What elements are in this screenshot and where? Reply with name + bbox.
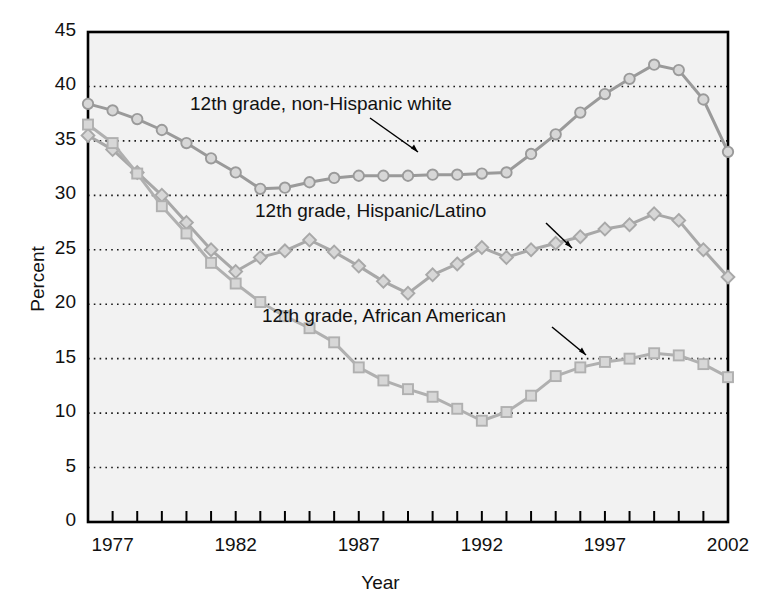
x-tick-label: 1977 <box>73 534 153 556</box>
data-point-marker <box>83 120 93 130</box>
data-point-marker <box>378 375 388 385</box>
x-tick-label: 1997 <box>565 534 645 556</box>
series-line <box>88 125 728 421</box>
y-tick-label: 5 <box>0 455 76 477</box>
x-tick-label: 1987 <box>319 534 399 556</box>
data-point-marker <box>230 167 240 177</box>
data-point-marker <box>526 149 536 159</box>
data-point-marker <box>477 168 487 178</box>
data-point-marker <box>500 251 513 264</box>
data-point-marker <box>329 337 339 347</box>
data-point-marker <box>181 138 191 148</box>
data-point-marker <box>378 171 388 181</box>
data-point-marker <box>649 348 659 358</box>
data-point-marker <box>280 183 290 193</box>
annotation-arrowhead <box>411 145 418 153</box>
data-point-marker <box>428 392 438 402</box>
data-point-marker <box>255 184 265 194</box>
data-point-marker <box>231 279 241 289</box>
data-point-marker <box>107 105 117 115</box>
data-point-marker <box>329 173 339 183</box>
data-point-marker <box>303 234 316 247</box>
data-point-marker <box>600 89 610 99</box>
data-point-marker <box>132 114 142 124</box>
data-point-marker <box>648 207 661 220</box>
data-point-marker <box>206 153 216 163</box>
data-point-marker <box>649 59 659 69</box>
data-point-marker <box>526 391 536 401</box>
data-point-marker <box>83 99 93 109</box>
annotation-arrowhead <box>579 348 586 356</box>
series-african-american <box>83 120 733 426</box>
data-point-marker <box>452 169 462 179</box>
x-axis-title: Year <box>0 572 761 594</box>
annotation-leader-line <box>370 118 418 152</box>
y-tick-label: 35 <box>0 128 76 150</box>
data-point-marker <box>674 350 684 360</box>
data-point-marker <box>477 416 487 426</box>
data-point-marker <box>674 65 684 75</box>
data-point-marker <box>108 138 118 148</box>
data-point-marker <box>254 251 267 264</box>
data-point-marker <box>279 244 292 257</box>
data-point-marker <box>549 237 562 250</box>
y-tick-label: 15 <box>0 346 76 368</box>
x-tick-label: 1982 <box>196 534 276 556</box>
x-tick-label: 2002 <box>688 534 761 556</box>
annotation-label-hispanic-latino: 12th grade, Hispanic/Latino <box>255 200 486 222</box>
data-point-marker <box>452 404 462 414</box>
data-point-marker <box>698 94 708 104</box>
data-point-marker <box>551 371 561 381</box>
y-tick-label: 10 <box>0 400 76 422</box>
y-tick-label: 45 <box>0 19 76 41</box>
chart-figure: Percent Year 051015202530354045 19771982… <box>0 0 761 607</box>
data-point-marker <box>157 125 167 135</box>
data-point-marker <box>181 228 191 238</box>
data-point-marker <box>525 243 538 256</box>
data-point-marker <box>501 167 511 177</box>
data-point-marker <box>132 169 142 179</box>
data-point-marker <box>304 177 314 187</box>
data-point-marker <box>403 171 413 181</box>
series-non-hispanic-white <box>83 59 733 194</box>
data-point-marker <box>625 354 635 364</box>
data-point-marker <box>723 372 733 382</box>
data-point-marker <box>575 107 585 117</box>
data-point-marker <box>698 359 708 369</box>
data-point-marker <box>403 384 413 394</box>
y-tick-label: 20 <box>0 291 76 313</box>
x-tick-label: 1992 <box>442 534 522 556</box>
data-point-marker <box>427 169 437 179</box>
data-point-marker <box>723 147 733 157</box>
data-point-marker <box>82 129 95 142</box>
y-tick-label: 0 <box>0 509 76 531</box>
data-point-marker <box>157 201 167 211</box>
data-point-marker <box>599 223 612 236</box>
data-point-marker <box>354 362 364 372</box>
data-point-marker <box>328 246 341 259</box>
data-point-marker <box>354 171 364 181</box>
y-tick-label: 30 <box>0 182 76 204</box>
data-point-marker <box>206 258 216 268</box>
data-point-marker <box>575 362 585 372</box>
data-point-marker <box>550 129 560 139</box>
annotation-label-african-american: 12th grade, African American <box>262 305 506 327</box>
y-tick-label: 25 <box>0 237 76 259</box>
annotation-label-non-hispanic-white: 12th grade, non-Hispanic white <box>190 93 452 115</box>
data-point-marker <box>501 407 511 417</box>
y-tick-label: 40 <box>0 73 76 95</box>
data-point-marker <box>624 74 634 84</box>
data-point-marker <box>623 218 636 231</box>
data-point-marker <box>600 357 610 367</box>
data-point-marker <box>574 230 587 243</box>
